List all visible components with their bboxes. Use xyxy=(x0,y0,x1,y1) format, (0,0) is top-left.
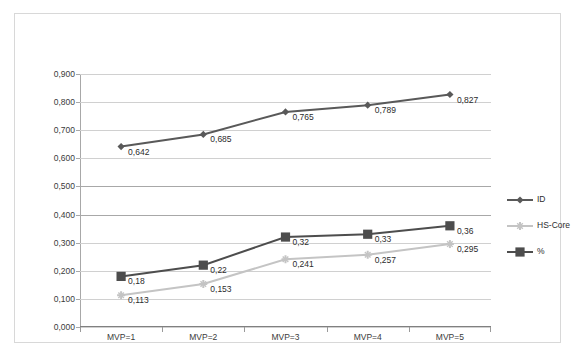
data-label: 0,827 xyxy=(457,95,478,105)
x-axis-tick-label: MVP=5 xyxy=(436,332,464,342)
legend-item-id[interactable]: ID xyxy=(507,186,576,212)
y-axis-tick-label: 0,800 xyxy=(31,97,75,107)
x-axis-tick-mark xyxy=(409,327,410,332)
series-plot xyxy=(80,74,491,327)
data-label: 0,33 xyxy=(375,234,392,244)
data-point-marker xyxy=(199,261,208,270)
x-axis-tick-mark xyxy=(80,327,81,332)
data-point-marker xyxy=(363,230,372,239)
y-axis-tick-label: 0,100 xyxy=(31,294,75,304)
series-line-id xyxy=(121,95,450,147)
legend-label: HS-Core xyxy=(537,220,570,230)
data-label: 0,257 xyxy=(375,255,396,265)
data-point-marker xyxy=(516,196,523,203)
data-point-marker xyxy=(364,102,371,109)
data-label: 0,36 xyxy=(457,226,474,236)
legend-label: ID xyxy=(537,194,546,204)
x-axis-tick-mark xyxy=(490,327,491,332)
data-point-marker xyxy=(281,232,290,241)
legend-label: % xyxy=(537,246,545,256)
data-label: 0,295 xyxy=(457,244,478,254)
data-label: 0,32 xyxy=(293,237,310,247)
x-axis-tick-label: MVP=3 xyxy=(271,332,299,342)
data-label: 0,153 xyxy=(210,284,231,294)
data-point-marker xyxy=(364,251,372,259)
data-point-marker xyxy=(282,255,290,263)
legend-marker-icon xyxy=(507,246,533,257)
data-point-marker xyxy=(118,143,125,150)
y-axis-tick-label: 0,500 xyxy=(31,181,75,191)
data-point-marker xyxy=(200,131,207,138)
x-axis-tick-mark xyxy=(244,327,245,332)
chart-legend: IDHS-Core% xyxy=(507,186,576,264)
data-point-marker xyxy=(117,272,126,281)
data-point-marker xyxy=(446,91,453,98)
x-axis-tick-mark xyxy=(327,327,328,332)
y-axis-tick-label: 0,600 xyxy=(31,153,75,163)
data-point-marker xyxy=(446,240,454,248)
gridline xyxy=(80,327,491,328)
data-label: 0,113 xyxy=(128,295,149,305)
x-axis-tick-label: MVP=2 xyxy=(189,332,217,342)
y-axis-tick-label: 0,000 xyxy=(31,322,75,332)
legend-item--[interactable]: % xyxy=(507,238,576,264)
y-axis-tick-label: 0,700 xyxy=(31,125,75,135)
y-axis-tick-label: 0,400 xyxy=(31,210,75,220)
x-axis-tick-mark xyxy=(162,327,163,332)
data-point-marker xyxy=(282,108,289,115)
x-axis-tick-label: MVP=1 xyxy=(107,332,135,342)
x-axis-tick-label: MVP=4 xyxy=(354,332,382,342)
data-label: 0,789 xyxy=(375,105,396,115)
legend-marker-icon xyxy=(507,220,533,231)
y-axis-tick-label: 0,300 xyxy=(31,238,75,248)
data-point-marker xyxy=(199,280,207,288)
plot-area: 0,0000,1000,2000,3000,4000,5000,6000,700… xyxy=(80,74,491,327)
data-label: 0,241 xyxy=(293,259,314,269)
data-point-marker xyxy=(515,247,524,256)
y-axis-tick-label: 0,900 xyxy=(31,69,75,79)
legend-marker-icon xyxy=(507,194,533,205)
data-label: 0,642 xyxy=(128,147,149,157)
data-label: 0,22 xyxy=(210,265,227,275)
y-axis-tick-label: 0,200 xyxy=(31,266,75,276)
data-point-marker xyxy=(117,291,125,299)
data-label: 0,685 xyxy=(210,134,231,144)
chart-screenshot: 0,0000,1000,2000,3000,4000,5000,6000,700… xyxy=(0,0,576,359)
data-label: 0,765 xyxy=(293,112,314,122)
chart-frame: 0,0000,1000,2000,3000,4000,5000,6000,700… xyxy=(14,13,561,343)
legend-item-hs-core[interactable]: HS-Core xyxy=(507,212,576,238)
data-point-marker xyxy=(445,221,454,230)
data-point-marker xyxy=(516,222,524,230)
data-label: 0,18 xyxy=(128,276,145,286)
